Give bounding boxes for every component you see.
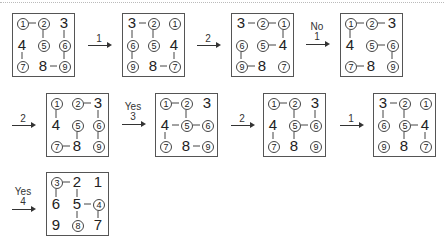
tile-1: 1 xyxy=(91,175,105,189)
arrow-shaft xyxy=(231,125,251,126)
tile-8: 8 xyxy=(397,139,411,153)
tile-1: 1 xyxy=(160,98,172,110)
tile-9: 9 xyxy=(49,218,63,232)
tile-4: 4 xyxy=(15,38,29,52)
tile-6: 6 xyxy=(49,197,63,211)
grid-state-4: 123456789 xyxy=(46,93,109,157)
tile-7: 7 xyxy=(278,61,290,73)
tile-8: 8 xyxy=(146,59,160,73)
tile-9: 9 xyxy=(59,61,71,73)
arrow-right-icon xyxy=(216,42,221,48)
tile-3: 3 xyxy=(91,96,105,110)
tile-7: 7 xyxy=(91,218,105,232)
tile-1: 1 xyxy=(17,18,29,30)
tile-6: 6 xyxy=(310,120,322,132)
tile-3: 3 xyxy=(376,96,390,110)
grid-state-6: 123456789 xyxy=(263,93,326,157)
tile-3: 3 xyxy=(385,16,399,30)
arrow-right-icon xyxy=(31,122,36,128)
transition-arrow-1: 2 xyxy=(195,28,221,58)
grid-state-8: 321654987 xyxy=(46,172,109,236)
tile-1: 1 xyxy=(278,18,290,30)
tile-4: 4 xyxy=(276,38,290,52)
tile-1: 1 xyxy=(420,98,432,110)
arrow-right-icon xyxy=(141,121,146,127)
tile-4: 4 xyxy=(418,118,432,132)
tile-3: 3 xyxy=(200,96,214,110)
tile-5: 5 xyxy=(366,40,378,52)
transition-arrow-7: Yes4 xyxy=(10,187,36,217)
arrow-shaft xyxy=(88,45,108,46)
tile-3: 3 xyxy=(57,16,71,30)
grid-state-5: 123456789 xyxy=(155,93,218,157)
tile-2: 2 xyxy=(181,98,193,110)
grid-state-7: 321654987 xyxy=(373,93,436,157)
arrow-right-icon xyxy=(107,42,112,48)
tile-3: 3 xyxy=(234,16,248,30)
tile-6: 6 xyxy=(378,120,390,132)
arrow-shaft xyxy=(12,209,32,210)
arrow-shaft xyxy=(306,44,326,45)
top-dotted-rule xyxy=(0,2,444,3)
tile-4: 4 xyxy=(343,38,357,52)
tile-6: 6 xyxy=(59,40,71,52)
tile-4: 4 xyxy=(49,118,63,132)
arrow-shaft xyxy=(122,124,142,125)
tile-5: 5 xyxy=(289,120,301,132)
arrow-right-icon xyxy=(31,206,36,212)
tile-2: 2 xyxy=(289,98,301,110)
tile-2: 2 xyxy=(72,98,84,110)
tile-2: 2 xyxy=(257,18,269,30)
arrow-right-icon xyxy=(359,122,364,128)
tile-7: 7 xyxy=(420,141,432,153)
tile-8: 8 xyxy=(179,139,193,153)
tile-9: 9 xyxy=(127,61,139,73)
grid-state-2: 321654987 xyxy=(231,13,294,77)
tile-8: 8 xyxy=(287,139,301,153)
tile-1: 1 xyxy=(268,98,280,110)
tile-8: 8 xyxy=(364,59,378,73)
tile-7: 7 xyxy=(51,141,63,153)
tile-5: 5 xyxy=(399,120,411,132)
transition-arrow-6: 1 xyxy=(338,108,364,138)
tile-3: 3 xyxy=(51,177,63,189)
tile-2: 2 xyxy=(70,175,84,189)
tile-6: 6 xyxy=(387,40,399,52)
tile-6: 6 xyxy=(202,120,214,132)
tile-9: 9 xyxy=(378,141,390,153)
tile-9: 9 xyxy=(310,141,322,153)
grid-state-0: 123456789 xyxy=(12,13,75,77)
tile-9: 9 xyxy=(387,61,399,73)
tile-7: 7 xyxy=(268,141,280,153)
arrow-right-icon xyxy=(325,41,330,47)
tile-2: 2 xyxy=(148,18,160,30)
tile-5: 5 xyxy=(181,120,193,132)
arrow-shaft xyxy=(12,125,32,126)
tile-4: 4 xyxy=(158,118,172,132)
grid-state-3: 123456789 xyxy=(340,13,403,77)
tile-2: 2 xyxy=(399,98,411,110)
tile-6: 6 xyxy=(93,120,105,132)
tile-2: 2 xyxy=(366,18,378,30)
tile-5: 5 xyxy=(70,197,84,211)
tile-3: 3 xyxy=(125,16,139,30)
arrow-shaft xyxy=(197,45,217,46)
tile-7: 7 xyxy=(160,141,172,153)
transition-arrow-2: No1 xyxy=(304,22,330,52)
tile-8: 8 xyxy=(255,59,269,73)
tile-4: 4 xyxy=(167,38,181,52)
arrow-right-icon xyxy=(250,122,255,128)
tile-5: 5 xyxy=(72,120,84,132)
arrow-shaft xyxy=(340,125,360,126)
tile-2: 2 xyxy=(38,18,50,30)
transition-arrow-5: 2 xyxy=(229,108,255,138)
tile-9: 9 xyxy=(202,141,214,153)
tile-3: 3 xyxy=(308,96,322,110)
tile-8: 8 xyxy=(70,139,84,153)
tile-7: 7 xyxy=(169,61,181,73)
tile-6: 6 xyxy=(127,40,139,52)
tile-9: 9 xyxy=(93,141,105,153)
tile-6: 6 xyxy=(236,40,248,52)
tile-8: 8 xyxy=(72,220,84,232)
tile-5: 5 xyxy=(148,40,160,52)
